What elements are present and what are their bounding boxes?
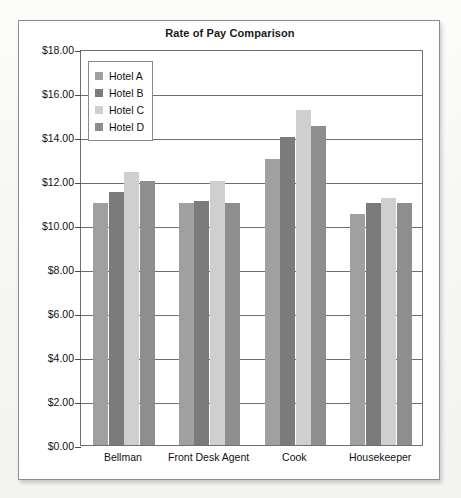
legend-item-label: Hotel C — [109, 104, 144, 116]
y-axis-tick-label: $16.00 — [42, 88, 74, 100]
bar — [93, 203, 108, 445]
bar — [225, 203, 240, 445]
y-axis-tick-label: $14.00 — [42, 132, 74, 144]
chart-legend: Hotel AHotel BHotel CHotel D — [88, 61, 153, 141]
bar — [210, 181, 225, 445]
x-axis-tick-label: Bellman — [80, 451, 166, 463]
legend-swatch-icon — [95, 106, 103, 114]
bar — [140, 181, 155, 445]
bar — [296, 110, 311, 446]
x-axis-tick-label: Housekeeper — [337, 451, 423, 463]
bar — [179, 203, 194, 445]
x-axis-tick-label: Cook — [252, 451, 338, 463]
bar — [124, 172, 139, 445]
bar — [109, 192, 124, 445]
y-axis-tick-label: $8.00 — [48, 264, 74, 276]
y-axis-tick-label: $2.00 — [48, 396, 74, 408]
legend-item: Hotel B — [95, 84, 144, 101]
y-axis-labels: $18.00$16.00$14.00$12.00$10.00$8.00$6.00… — [19, 50, 74, 446]
legend-item: Hotel C — [95, 101, 144, 118]
bar — [194, 201, 209, 445]
y-axis-tick-mark — [75, 447, 81, 448]
legend-swatch-icon — [95, 72, 103, 80]
bar — [397, 203, 412, 445]
y-axis-tick-label: $0.00 — [48, 440, 74, 452]
bar — [311, 126, 326, 445]
legend-item-label: Hotel D — [109, 121, 144, 133]
legend-swatch-icon — [95, 89, 103, 97]
chart-title: Rate of Pay Comparison — [19, 27, 441, 39]
y-axis-tick-label: $10.00 — [42, 220, 74, 232]
legend-item: Hotel A — [95, 67, 144, 84]
bar — [381, 198, 396, 446]
y-axis-tick-label: $12.00 — [42, 176, 74, 188]
chart-frame: Rate of Pay Comparison $18.00$16.00$14.0… — [18, 20, 440, 480]
legend-item-label: Hotel A — [109, 70, 143, 82]
bar — [350, 214, 365, 445]
y-axis-tick-label: $4.00 — [48, 352, 74, 364]
bar — [265, 159, 280, 445]
y-axis-tick-label: $6.00 — [48, 308, 74, 320]
bar — [366, 203, 381, 445]
legend-item-label: Hotel B — [109, 87, 143, 99]
x-axis-tick-label: Front Desk Agent — [166, 451, 252, 463]
legend-item: Hotel D — [95, 118, 144, 135]
legend-swatch-icon — [95, 123, 103, 131]
y-axis-tick-label: $18.00 — [42, 44, 74, 56]
bar — [280, 137, 295, 445]
